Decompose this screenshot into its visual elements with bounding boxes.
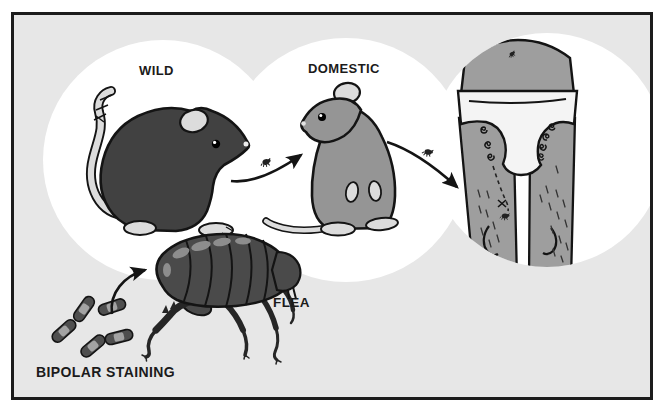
domestic-rat-eye-glint (319, 114, 322, 117)
label-flea: FLEA (273, 295, 310, 310)
wild-rat-hind-foot (124, 221, 156, 235)
domestic-rat-nose (301, 121, 306, 126)
label-bipolar-staining: BIPOLAR STAINING (36, 364, 175, 380)
figure-stage: WILD DOMESTIC FLEA BIPOLAR STAINING (0, 0, 664, 412)
label-domestic: DOMESTIC (308, 61, 380, 76)
wild-rat-eye-glint (213, 141, 216, 144)
domestic-rat-eye (318, 113, 326, 121)
label-wild: WILD (139, 63, 174, 78)
domestic-rat-foot-left (321, 223, 355, 236)
wild-rat-eye (212, 140, 220, 148)
wild-rat-nose (244, 142, 249, 147)
